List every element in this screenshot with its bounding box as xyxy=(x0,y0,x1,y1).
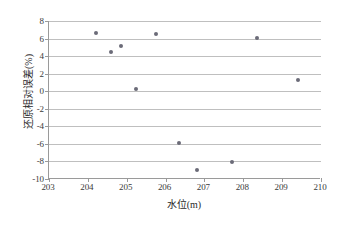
gridline xyxy=(49,56,321,57)
x-axis-tick-label: 208 xyxy=(222,182,262,192)
gridline xyxy=(49,144,321,145)
x-axis-tick-label: 204 xyxy=(67,182,107,192)
gridline xyxy=(49,39,321,40)
y-axis-tick xyxy=(45,179,49,180)
y-axis-tick xyxy=(45,109,49,110)
x-axis-tick-label: 203 xyxy=(28,182,68,192)
x-axis-title: 水位(m) xyxy=(48,196,320,211)
scatter-chart: 86420-2-4-6-8-10 20320420520620720820921… xyxy=(0,0,338,230)
data-point xyxy=(296,78,300,82)
data-point xyxy=(154,32,158,36)
x-axis-tick-labels: 203204205206207208209210 xyxy=(48,182,320,196)
gridline xyxy=(49,74,321,75)
y-axis-tick xyxy=(45,91,49,92)
plot-area xyxy=(48,21,320,179)
x-axis-tick-label: 205 xyxy=(106,182,146,192)
data-point xyxy=(195,168,199,172)
x-axis-tick-label: 206 xyxy=(145,182,185,192)
gridline xyxy=(49,126,321,127)
x-axis-tick-label: 207 xyxy=(183,182,223,192)
y-axis-tick xyxy=(45,74,49,75)
y-axis-title: 还原相对误差(%) xyxy=(20,17,35,167)
data-point xyxy=(177,141,181,145)
gridline xyxy=(49,91,321,92)
y-axis-tick xyxy=(45,126,49,127)
data-point xyxy=(255,36,259,40)
gridline xyxy=(49,21,321,22)
data-point xyxy=(230,160,234,164)
data-point xyxy=(94,31,98,35)
data-point xyxy=(119,44,123,48)
x-axis-tick-label: 210 xyxy=(300,182,338,192)
gridline xyxy=(49,109,321,110)
y-axis-tick xyxy=(45,56,49,57)
x-axis-tick-label: 209 xyxy=(261,182,301,192)
y-axis-tick xyxy=(45,161,49,162)
data-point xyxy=(109,50,113,54)
y-axis-tick xyxy=(45,21,49,22)
y-axis-tick xyxy=(45,144,49,145)
gridline xyxy=(49,161,321,162)
y-axis-tick xyxy=(45,39,49,40)
